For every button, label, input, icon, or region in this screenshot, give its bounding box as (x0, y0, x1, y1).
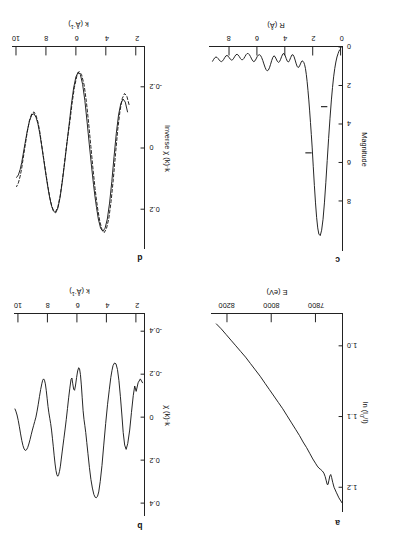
x-tick-label: 8 (44, 34, 48, 43)
panel-c-plotbox (210, 46, 344, 251)
panel-c: c 02468 02468 R (Å) Magnitude (198, 0, 395, 267)
x-tick-label: 8 (227, 34, 231, 43)
y-tick-label: 8 (347, 196, 351, 205)
panel-a-plotbox (212, 313, 344, 512)
panel-d-plot (12, 47, 145, 249)
panel-c-yaxis-title: Magnitude (361, 48, 370, 253)
x-tick-label: 6 (255, 34, 259, 43)
y-tick-label: 2 (347, 80, 351, 89)
panel-c-window-markers (305, 107, 327, 153)
x-tick-label: 6 (76, 301, 80, 310)
panel-a-yaxis-title: ln (I0/I) (360, 314, 370, 513)
figure-grid: a 780080008200 1.01.11.2 E (eV) ln (I0/I… (0, 0, 395, 534)
panel-c-plot (210, 47, 343, 251)
x-tick-label: 8000 (263, 301, 279, 310)
panel-a-xaxis-title: E (eV) (211, 288, 343, 297)
y-tick-label: 0.4 (150, 499, 160, 508)
y-tick-label: -0.2 (150, 82, 163, 91)
x-tick-label: 4 (283, 34, 287, 43)
x-tick-label: 2 (311, 34, 315, 43)
series-raw-chi-k-k (15, 363, 143, 498)
x-tick-label: 2 (135, 301, 139, 310)
panel-c-xaxis-title: R (Å) (209, 21, 343, 30)
y-tick-label: 0 (150, 143, 154, 152)
panel-d-xaxis-title: k (Å-1) (12, 20, 146, 30)
y-tick-label: 6 (347, 158, 351, 167)
y-tick-label: 1.0 (347, 340, 357, 349)
panel-a-letter: a (335, 518, 340, 528)
panel-d-letter: d (137, 253, 142, 263)
y-tick-label: 0.2 (150, 205, 160, 214)
panel-b-yaxis-title: χ (k)·k (163, 315, 172, 518)
x-tick-label: 10 (12, 34, 20, 43)
x-tick-label: 7800 (308, 301, 324, 310)
y-tick-label: 4 (347, 119, 351, 128)
y-tick-label: 1.1 (347, 412, 357, 421)
x-tick-label: 4 (105, 301, 109, 310)
panel-a: a 780080008200 1.01.11.2 E (eV) ln (I0/I… (198, 267, 395, 534)
y-tick-label: -0.4 (150, 326, 163, 335)
panel-a-plot (212, 314, 343, 512)
y-tick-label: 0 (150, 412, 154, 421)
series-absorption (216, 324, 342, 503)
x-tick-label: 10 (14, 301, 22, 310)
x-tick-label: 4 (105, 34, 109, 43)
figure-rotator: a 780080008200 1.01.11.2 E (eV) ln (I0/I… (0, 0, 395, 534)
y-tick-label: -0.2 (150, 369, 163, 378)
y-tick-label: 0 (347, 42, 351, 51)
x-tick-label: 8200 (219, 301, 235, 310)
panel-b-plotbox (14, 313, 146, 516)
panel-b-xaxis-title: k (Å-1) (14, 287, 146, 297)
x-tick-label: 6 (75, 34, 79, 43)
x-tick-label: 2 (135, 34, 139, 43)
y-tick-label: 1.2 (347, 483, 357, 492)
panel-c-letter: c (335, 255, 340, 265)
panel-b-plot (14, 314, 145, 516)
x-tick-label: 0 (340, 34, 344, 43)
panel-b: b 246810 -0.4-0.200.20.4 k (Å-1) χ (k)·k (0, 267, 198, 534)
series-fourier-transform-magnitude (213, 49, 341, 236)
x-tick-label: 8 (46, 301, 50, 310)
y-tick-label: 0.2 (150, 455, 160, 464)
panel-d-plotbox (12, 46, 146, 249)
series-filtered-data (17, 72, 128, 231)
panel-b-letter: b (137, 521, 142, 531)
panel-d-yaxis-title: Inverse χ (k)·k (163, 48, 172, 251)
panel-d: d 246810 -0.200.2 k (Å-1) Inverse χ (k)·… (0, 0, 198, 267)
